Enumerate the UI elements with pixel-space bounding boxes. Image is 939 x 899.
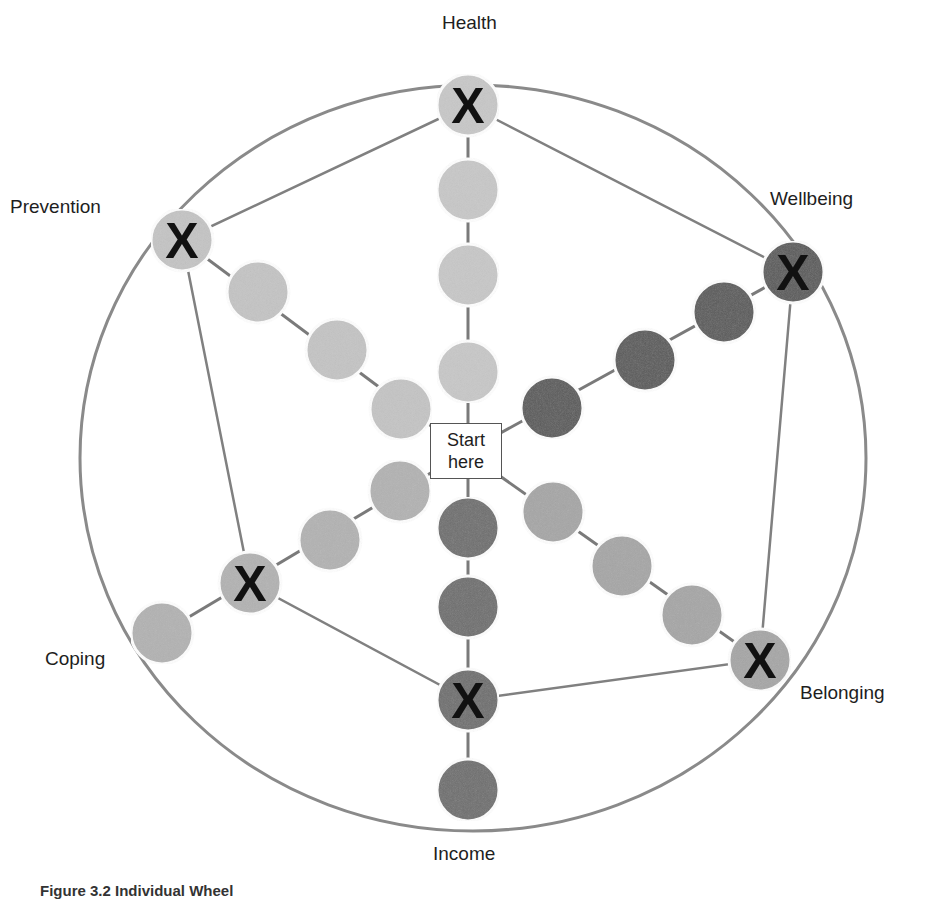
- label-wellbeing: Wellbeing: [770, 188, 853, 210]
- wellbeing-level-2[interactable]: [614, 329, 676, 391]
- health-level-2[interactable]: [437, 244, 499, 306]
- coping-level-4[interactable]: [131, 602, 193, 664]
- income-x-mark-icon: X: [451, 673, 484, 729]
- label-coping: Coping: [45, 648, 105, 670]
- health-level-1[interactable]: [437, 341, 499, 403]
- prevention-x-mark-icon: X: [165, 213, 198, 269]
- belonging-level-1[interactable]: [522, 481, 584, 543]
- coping-level-1[interactable]: [369, 460, 431, 522]
- prevention-level-1[interactable]: [370, 378, 432, 440]
- coping-x-mark-icon: X: [233, 556, 266, 612]
- start-here-box[interactable]: Start here: [430, 423, 502, 479]
- belonging-x-mark-icon: X: [743, 633, 776, 689]
- income-level-1[interactable]: [437, 497, 499, 559]
- health-x-mark-icon: X: [451, 78, 484, 134]
- label-health: Health: [442, 12, 497, 34]
- coping-level-2[interactable]: [299, 509, 361, 571]
- wellbeing-x-mark-icon: X: [776, 245, 809, 301]
- prevention-level-3[interactable]: [227, 261, 289, 323]
- belonging-level-2[interactable]: [591, 535, 653, 597]
- belonging-level-3[interactable]: [661, 584, 723, 646]
- wellbeing-level-3[interactable]: [693, 281, 755, 343]
- start-label-line1: Start: [447, 429, 485, 451]
- income-level-2[interactable]: [437, 576, 499, 638]
- wellbeing-level-1[interactable]: [521, 377, 583, 439]
- start-label-line2: here: [448, 451, 484, 473]
- label-prevention: Prevention: [10, 196, 101, 218]
- income-level-4[interactable]: [437, 759, 499, 821]
- label-income: Income: [433, 843, 495, 865]
- label-belonging: Belonging: [800, 682, 885, 704]
- health-level-3[interactable]: [437, 159, 499, 221]
- prevention-level-2[interactable]: [306, 319, 368, 381]
- figure-caption: Figure 3.2 Individual Wheel: [40, 882, 233, 899]
